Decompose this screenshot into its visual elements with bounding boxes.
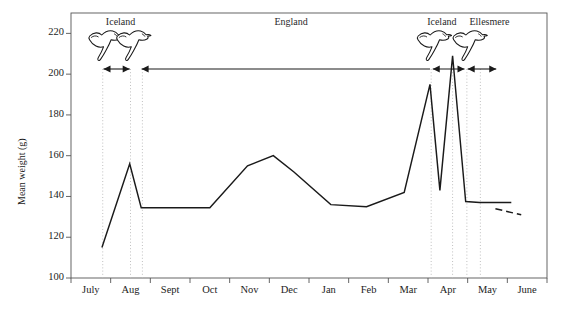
bird-body (453, 31, 487, 61)
y-tick-label: 180 (26, 108, 64, 119)
region-label-england: England (246, 16, 336, 27)
plot-frame (71, 13, 547, 278)
bird-icon-ellesmere (453, 31, 487, 61)
data-line-mean-weight (102, 56, 511, 248)
y-tick-label: 160 (26, 149, 64, 160)
arrow-head (104, 65, 111, 72)
region-label-ellesmere: Ellesmere (444, 16, 534, 27)
y-tick-label: 120 (26, 230, 64, 241)
region-label-iceland-1: Iceland (76, 16, 166, 27)
bird-body (117, 31, 151, 61)
arrow-head (123, 65, 130, 72)
x-tick-label-june: June (497, 284, 557, 295)
plot-area (0, 0, 562, 310)
data-line-projected (495, 209, 521, 215)
y-tick-label: 140 (26, 189, 64, 200)
arrow-head (468, 65, 475, 72)
bird-icon-iceland-2 (117, 31, 151, 61)
y-tick-label: 220 (26, 26, 64, 37)
bird-icon-iceland-3 (417, 31, 451, 61)
arrow-head (457, 65, 464, 72)
bird-body (417, 31, 451, 61)
arrow-head (489, 65, 496, 72)
arrow-head (142, 65, 149, 72)
arrow-head (433, 65, 440, 72)
chart-figure: Mean weight (g) 100 120 140 160 180 200 … (0, 0, 562, 310)
y-tick-label: 200 (26, 67, 64, 78)
y-tick-label: 100 (26, 271, 64, 282)
